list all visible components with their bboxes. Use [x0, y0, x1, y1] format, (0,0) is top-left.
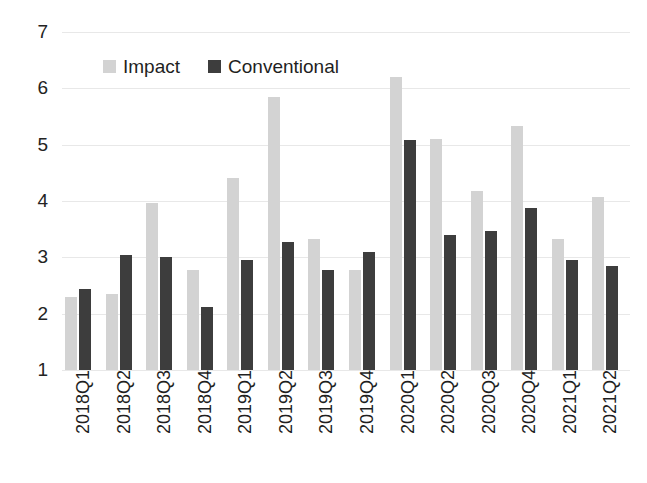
- legend-label: Conventional: [228, 57, 339, 76]
- x-tick-label: 2019Q3: [317, 370, 335, 480]
- bar-impact: [65, 297, 77, 370]
- bar-group: [187, 32, 222, 370]
- y-axis: 1234567: [14, 32, 48, 370]
- y-tick-label: 5: [14, 135, 48, 154]
- y-tick-label: 2: [14, 304, 48, 323]
- bar-impact: [430, 139, 442, 370]
- y-tick-label: 4: [14, 191, 48, 210]
- bar-impact: [308, 239, 320, 370]
- bar-impact: [471, 191, 483, 370]
- bar-impact: [349, 270, 361, 370]
- bar-impact: [552, 239, 564, 370]
- bar-group: [511, 32, 546, 370]
- bar-group: [430, 32, 465, 370]
- x-axis: 2018Q12018Q22018Q32018Q42019Q12019Q22019…: [62, 372, 630, 482]
- x-tick-label: 2020Q1: [399, 370, 417, 480]
- bar-group: [349, 32, 384, 370]
- bar-group: [106, 32, 141, 370]
- y-tick-label: 1: [14, 360, 48, 379]
- x-tick-label: 2021Q2: [601, 370, 619, 480]
- bar-impact: [187, 270, 199, 370]
- bar-impact: [227, 178, 239, 370]
- gridline: [62, 370, 630, 371]
- bar-group: [308, 32, 343, 370]
- bar-conventional: [404, 140, 416, 370]
- conventional-swatch-icon: [208, 60, 221, 73]
- bar-impact: [511, 126, 523, 370]
- x-tick-label: 2020Q3: [480, 370, 498, 480]
- x-tick-label: 2018Q2: [115, 370, 133, 480]
- x-tick-label: 2019Q1: [236, 370, 254, 480]
- bar-conventional: [79, 289, 91, 370]
- bar-conventional: [485, 231, 497, 370]
- bar-impact: [106, 294, 118, 370]
- bar-conventional: [363, 252, 375, 370]
- bar-group: [552, 32, 587, 370]
- bar-conventional: [282, 242, 294, 370]
- bar-group: [146, 32, 181, 370]
- bar-impact: [268, 97, 280, 370]
- bar-conventional: [201, 307, 213, 370]
- bar-group: [268, 32, 303, 370]
- y-tick-label: 3: [14, 247, 48, 266]
- x-tick-label: 2018Q4: [196, 370, 214, 480]
- bar-group: [390, 32, 425, 370]
- bar-group: [227, 32, 262, 370]
- bar-impact: [146, 203, 158, 370]
- bar-conventional: [120, 255, 132, 370]
- impact-swatch-icon: [103, 60, 116, 73]
- bar-group: [471, 32, 506, 370]
- legend-item: Impact: [103, 57, 180, 76]
- bar-conventional: [241, 260, 253, 370]
- bar-conventional: [160, 257, 172, 370]
- bar-impact: [390, 77, 402, 370]
- x-tick-label: 2018Q3: [155, 370, 173, 480]
- y-tick-label: 6: [14, 78, 48, 97]
- x-tick-label: 2019Q2: [277, 370, 295, 480]
- x-tick-label: 2019Q4: [358, 370, 376, 480]
- bar-conventional: [606, 266, 618, 370]
- legend-label: Impact: [123, 57, 180, 76]
- x-tick-label: 2020Q2: [439, 370, 457, 480]
- bar-conventional: [525, 208, 537, 370]
- x-tick-label: 2018Q1: [74, 370, 92, 480]
- legend-item: Conventional: [208, 57, 339, 76]
- bar-group: [592, 32, 627, 370]
- plot-area: [62, 32, 630, 370]
- x-tick-label: 2020Q4: [520, 370, 538, 480]
- x-tick-label: 2021Q1: [561, 370, 579, 480]
- bar-group: [65, 32, 100, 370]
- y-tick-label: 7: [14, 22, 48, 41]
- bar-conventional: [322, 270, 334, 370]
- bar-chart: 1234567 2018Q12018Q22018Q32018Q42019Q120…: [0, 0, 647, 483]
- legend: ImpactConventional: [103, 57, 339, 76]
- bar-impact: [592, 197, 604, 371]
- bar-conventional: [566, 260, 578, 370]
- bar-conventional: [444, 235, 456, 370]
